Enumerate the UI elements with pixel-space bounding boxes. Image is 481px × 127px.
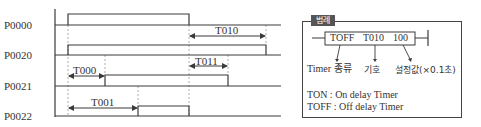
timer-label-t001: T001 <box>91 96 114 108</box>
waveform-p0000 <box>55 14 281 25</box>
signal-label-p0022: P0022 <box>4 110 32 122</box>
timer-label-t011: T011 <box>195 55 218 67</box>
legend-caption-type: Timer 종류 <box>307 63 352 75</box>
legend-def-ton: TON : On delay Timer <box>307 89 398 101</box>
timing-waveforms <box>0 0 300 127</box>
waveform-p0021 <box>55 75 281 86</box>
timing-diagram: P0000 P0020 P0021 P0022 T010 T000 T011 T… <box>0 0 300 127</box>
signal-label-p0020: P0020 <box>4 49 32 61</box>
signal-label-p0000: P0000 <box>4 19 32 31</box>
signal-label-p0021: P0021 <box>4 80 32 92</box>
timer-label-t000: T000 <box>73 64 96 76</box>
waveform-p0020 <box>55 45 281 55</box>
legend-symbol: T010 <box>363 32 384 44</box>
legend-setting: 100 <box>393 32 408 44</box>
legend-caption-setting: 설정값(×0.1초) <box>395 64 456 76</box>
timer-label-t010: T010 <box>215 24 238 36</box>
legend-def-toff: TOFF : Off delay Timer <box>307 101 403 113</box>
legend-type: TOFF <box>330 32 354 44</box>
legend-caption-symbol: 기호 <box>364 64 380 76</box>
